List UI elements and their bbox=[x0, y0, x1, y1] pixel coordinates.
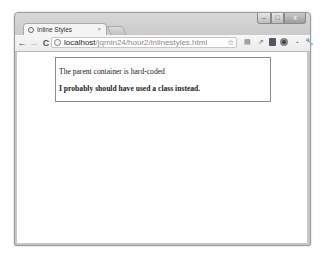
minimize-button[interactable]: – bbox=[257, 13, 271, 24]
globe-icon bbox=[28, 27, 34, 33]
share-icon[interactable]: ⇗ bbox=[256, 38, 265, 46]
maximize-button[interactable]: □ bbox=[271, 13, 284, 24]
url-path: /jqmin24/hour2/inlinestyles.html bbox=[96, 38, 208, 47]
tab-title: Inline Styles bbox=[37, 26, 72, 33]
close-window-button[interactable]: x bbox=[284, 13, 306, 24]
page-action-icon[interactable]: ▤ bbox=[243, 38, 252, 46]
forward-button[interactable]: → bbox=[29, 38, 39, 48]
url-host: localhost bbox=[64, 38, 96, 47]
extension-icons: ▤ ⇗ ◔ 🔧 bbox=[243, 38, 314, 46]
bookmark-doc-icon[interactable] bbox=[269, 38, 276, 46]
paragraph-class-note: I probably should have used a class inst… bbox=[59, 84, 267, 93]
parent-container: The parent container is hard-coded I pro… bbox=[55, 57, 271, 102]
address-bar[interactable]: localhost /jqmin24/hour2/inlinestyles.ht… bbox=[51, 37, 237, 48]
browser-window: – □ x Inline Styles × ← → C localhost /j… bbox=[14, 12, 311, 246]
paragraph-hard-coded: The parent container is hard-coded bbox=[59, 67, 267, 76]
page-viewport: The parent container is hard-coded I pro… bbox=[17, 52, 307, 243]
window-controls: – □ x bbox=[257, 13, 306, 23]
tab-close-icon[interactable]: × bbox=[97, 26, 101, 32]
back-button[interactable]: ← bbox=[17, 38, 27, 48]
clock-icon[interactable]: ◔ bbox=[292, 39, 301, 46]
tab-inline-styles[interactable]: Inline Styles × bbox=[23, 23, 107, 35]
opera-icon[interactable] bbox=[280, 38, 288, 46]
page-info-icon[interactable] bbox=[54, 39, 61, 46]
bookmark-star-icon[interactable]: ☆ bbox=[227, 38, 234, 47]
wrench-icon[interactable]: 🔧 bbox=[305, 38, 314, 46]
navigation-toolbar: ← → C localhost /jqmin24/hour2/inlinesty… bbox=[15, 35, 310, 52]
reload-button[interactable]: C bbox=[41, 38, 51, 48]
